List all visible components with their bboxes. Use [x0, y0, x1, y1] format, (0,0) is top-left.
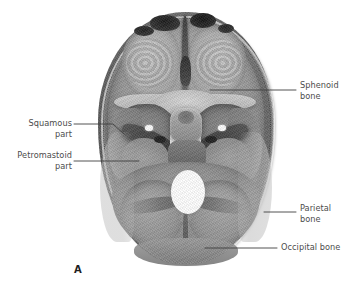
gyral-impressions-left — [126, 38, 174, 88]
foramen-ovale-left — [154, 136, 166, 143]
frontal-sinus-opening — [150, 15, 180, 31]
skull-base-photograph — [98, 12, 274, 264]
label-petromastoid-part: Petromastoid part — [2, 150, 72, 171]
label-sphenoid-bone: Sphenoid bone — [300, 80, 356, 101]
frontal-aperture-right — [218, 24, 234, 33]
label-squamous-part: Squamous part — [4, 118, 72, 139]
occipital-bone-shelf — [134, 238, 238, 266]
label-occipital-bone: Occipital bone — [281, 242, 357, 253]
gyral-impressions-right — [194, 38, 242, 88]
carotid-canal-left — [145, 125, 153, 131]
carotid-canal-right — [218, 125, 226, 131]
anatomical-figure: Sphenoid bone Squamous part Petromastoid… — [0, 0, 357, 290]
foramen-ovale-right — [205, 136, 217, 143]
ethmoid-air-cell-opening — [190, 13, 216, 28]
crista-galli — [180, 56, 191, 86]
figure-letter: A — [74, 264, 82, 275]
foramen-magnum — [171, 170, 205, 214]
parietal-bone-wall-right — [238, 132, 272, 242]
frontal-aperture-left — [134, 26, 154, 36]
label-parietal-bone: Parietal bone — [300, 203, 356, 224]
hypophyseal-fossa — [178, 111, 194, 124]
parietal-bone-wall-left — [100, 132, 134, 242]
